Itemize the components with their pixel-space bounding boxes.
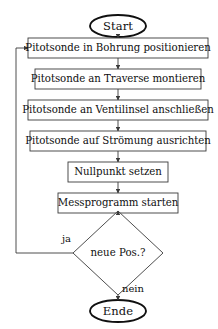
node-p3-shape: [28, 100, 208, 120]
node-p4-shape: [30, 131, 206, 151]
node-p2-shape: [35, 69, 201, 89]
node-d1-shape: [73, 211, 163, 295]
node-p1-shape: [28, 38, 208, 58]
node-start-shape: [90, 15, 146, 37]
flowchart-canvas: Start Pitotsonde in Bohrung positioniere…: [0, 0, 218, 329]
node-p6-shape: [58, 193, 178, 213]
node-end-shape: [90, 300, 146, 322]
node-p5-shape: [68, 162, 168, 182]
flowchart-graphics: [0, 0, 218, 329]
